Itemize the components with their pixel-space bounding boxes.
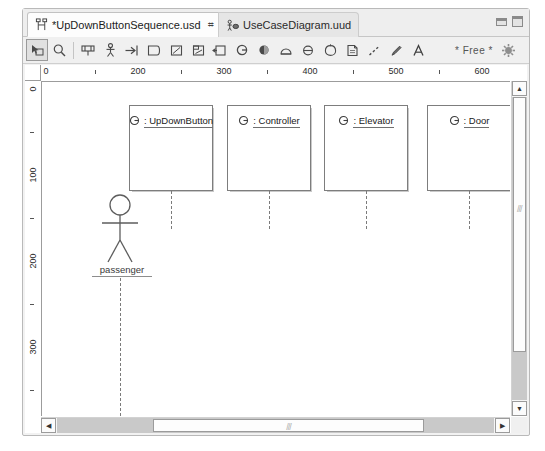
- settings-tool-button[interactable]: [498, 39, 520, 61]
- tab-label: UseCaseDiagram.uud: [243, 19, 351, 31]
- text-tool-button[interactable]: [407, 39, 429, 61]
- lifeline-box-door[interactable]: : Door: [427, 105, 510, 191]
- ruler-label: 200: [28, 253, 38, 268]
- scroll-track-vertical[interactable]: ///: [512, 97, 527, 400]
- window-controls: [496, 16, 523, 27]
- dependency-tool-button[interactable]: [363, 39, 385, 61]
- close-icon[interactable]: ⌗: [208, 19, 214, 31]
- lifeline-icon: [212, 43, 228, 58]
- vertical-scrollbar[interactable]: ▲ /// ▼: [511, 81, 527, 416]
- dashed-line-icon: [367, 43, 382, 58]
- lifeline-name: : Elevator: [353, 115, 393, 128]
- object-circle-icon: [449, 112, 460, 130]
- frame-tool-button[interactable]: [165, 39, 187, 61]
- ruler-label: 100: [28, 167, 38, 182]
- message-tool-button[interactable]: [121, 39, 143, 61]
- lifeline-name: : Door: [464, 115, 490, 128]
- horizontal-ruler: 0 200 300 400 500 600: [41, 65, 510, 82]
- ruler-label: 400: [302, 66, 317, 76]
- diagram-canvas[interactable]: passenger : UpDownButton: [42, 82, 510, 416]
- object-circle-icon: [129, 112, 140, 130]
- port-tool-button[interactable]: [297, 39, 319, 61]
- object-circle-icon: [235, 43, 249, 57]
- ruler-label: 500: [388, 66, 403, 76]
- lifeline-updownbutton[interactable]: [171, 191, 172, 229]
- lifeline-header: : Controller: [228, 106, 310, 132]
- lifeline-name: : UpDownButton: [144, 115, 213, 128]
- ruler-tick: [30, 132, 34, 133]
- lifeline-header: : Elevator: [325, 106, 407, 132]
- lifeline-door[interactable]: [469, 191, 470, 229]
- diagram-editor: 0 200 300 400 500 600 0 100 200 300: [25, 65, 527, 433]
- note-icon: [146, 43, 162, 58]
- component-round-icon: [323, 43, 338, 58]
- ruler-label: 0: [43, 66, 48, 76]
- horizontal-scrollbar[interactable]: ◀ /// ▶: [41, 417, 510, 433]
- package-tool-button[interactable]: [77, 39, 99, 61]
- actor-icon: [104, 43, 117, 58]
- ruler-tick: [181, 70, 182, 74]
- actor-lifeline[interactable]: [120, 278, 121, 416]
- pen-icon: [389, 43, 404, 58]
- cursor-select-icon: [30, 43, 45, 58]
- ruler-tick: [95, 70, 96, 74]
- lifeline-elevator[interactable]: [366, 191, 367, 229]
- ruler-tick: [267, 70, 268, 74]
- state-icon: [278, 43, 294, 58]
- maximize-button[interactable]: [512, 16, 523, 27]
- package-icon: [80, 43, 96, 58]
- scroll-right-arrow-icon[interactable]: ▶: [495, 418, 510, 433]
- usecase-diagram-icon: [226, 19, 239, 32]
- ruler-tick: [30, 218, 34, 219]
- arrow-message-icon: [124, 43, 140, 58]
- scroll-down-arrow-icon[interactable]: ▼: [512, 401, 527, 416]
- scrollbar-corner: [511, 417, 527, 433]
- lifeline-tool-button[interactable]: [209, 39, 231, 61]
- vertical-ruler: 0 100 200 300: [25, 81, 42, 416]
- combined-fragment-tool-button[interactable]: [187, 39, 209, 61]
- tab-label: *UpDownButtonSequence.usd: [52, 19, 201, 31]
- magnifier-icon: [52, 43, 67, 58]
- document-tool-button[interactable]: [341, 39, 363, 61]
- state-tool-button[interactable]: [275, 39, 297, 61]
- interface-tool-button[interactable]: [253, 39, 275, 61]
- lifeline-box-elevator[interactable]: : Elevator: [324, 105, 408, 191]
- lifeline-name: : Controller: [253, 115, 299, 128]
- lifeline-header: : UpDownButton: [130, 106, 212, 132]
- association-tool-button[interactable]: [385, 39, 407, 61]
- object-circle-icon: [238, 112, 249, 130]
- ruler-corner: [25, 65, 41, 81]
- ruler-tick: [439, 70, 440, 74]
- port-icon: [300, 43, 316, 58]
- note-tool-button[interactable]: [143, 39, 165, 61]
- scroll-thumb-vertical[interactable]: ///: [513, 97, 526, 352]
- tab-updownbuttonsequence[interactable]: *UpDownButtonSequence.usd ⌗: [27, 12, 222, 37]
- lifeline-controller[interactable]: [269, 191, 270, 229]
- ruler-label: 300: [28, 339, 38, 354]
- scroll-track-horizontal[interactable]: ///: [57, 418, 494, 433]
- zoom-tool-button[interactable]: [48, 39, 70, 61]
- gear-sun-icon: [501, 43, 516, 58]
- tab-bar: *UpDownButtonSequence.usd ⌗ UseCaseDiagr…: [23, 9, 529, 37]
- ruler-tick: [30, 304, 34, 305]
- minimize-button[interactable]: [496, 18, 507, 26]
- scroll-up-arrow-icon[interactable]: ▲: [512, 81, 527, 96]
- ruler-label: 600: [474, 66, 489, 76]
- ruler-tick: [30, 390, 34, 391]
- lifeline-header: : Door: [428, 106, 510, 132]
- actor-passenger[interactable]: [100, 194, 140, 266]
- select-tool-button[interactable]: [26, 39, 48, 61]
- tab-usecasediagram[interactable]: UseCaseDiagram.uud: [218, 12, 359, 37]
- component-tool-button[interactable]: [319, 39, 341, 61]
- scroll-thumb-horizontal[interactable]: ///: [153, 419, 424, 432]
- free-mode-label: * Free *: [455, 45, 493, 56]
- lifeline-box-controller[interactable]: : Controller: [227, 105, 311, 191]
- object-tool-button[interactable]: [231, 39, 253, 61]
- lifeline-box-updownbutton[interactable]: : UpDownButton: [129, 105, 213, 191]
- sequence-diagram-icon: [35, 18, 48, 31]
- ruler-label: 200: [130, 66, 145, 76]
- text-a-icon: [411, 43, 426, 58]
- scroll-left-arrow-icon[interactable]: ◀: [41, 418, 56, 433]
- frame-icon: [169, 43, 184, 58]
- actor-tool-button[interactable]: [99, 39, 121, 61]
